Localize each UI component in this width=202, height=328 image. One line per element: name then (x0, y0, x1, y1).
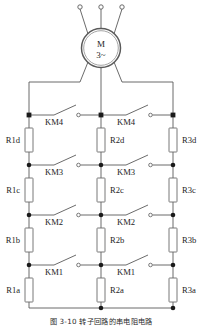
resistor-R1c-body (25, 178, 33, 202)
resistor-R1b-label: R1b (6, 235, 20, 245)
node-centre-km2 (99, 213, 104, 218)
km3-right-open-contact[interactable] (149, 163, 153, 167)
node-right-km1 (171, 263, 176, 268)
km2-left-blade[interactable] (54, 205, 76, 215)
km3-left-label: KM3 (45, 167, 63, 177)
resistor-R2c-label: R2c (110, 185, 124, 195)
resistor-R3b-label: R3b (182, 235, 196, 245)
resistor-R3c-body (169, 178, 177, 202)
rotor-output-leads (29, 62, 173, 115)
terminal-circle-w (120, 5, 124, 9)
resistor-R2d-label: R2d (110, 135, 125, 145)
resistor-R3c-label: R3c (182, 185, 196, 195)
rotor-resistance-schematic: M 3~ (0, 0, 202, 328)
km3-left-open-contact[interactable] (77, 163, 81, 167)
terminal-lead-u (80, 9, 88, 34)
node-right-km2 (171, 213, 176, 218)
node-left-km4 (27, 113, 32, 118)
km4-right-open-contact[interactable] (149, 113, 153, 117)
resistor-R2a-body (97, 278, 105, 302)
rotor-lead-left (29, 62, 88, 115)
km4-left-open-contact[interactable] (77, 113, 81, 117)
motor-phase-label: 3~ (96, 50, 106, 60)
km2-right-blade[interactable] (126, 205, 148, 215)
km3-right-label: KM3 (117, 167, 135, 177)
resistor-R1d-label: R1d (6, 135, 21, 145)
terminal-circle-u (78, 5, 82, 9)
resistor-R3a-label: R3a (182, 285, 196, 295)
resistor-R3d-label: R3d (182, 135, 197, 145)
node-centre-km4 (99, 113, 104, 118)
node-left-km3 (27, 163, 32, 168)
node-right-star (171, 306, 176, 311)
node-centre-km3 (99, 163, 104, 168)
motor-symbol-label: M (97, 39, 105, 49)
km2-right-label: KM2 (117, 217, 135, 227)
node-centre-km1 (99, 263, 104, 268)
node-left-km1 (27, 263, 32, 268)
node-left-km2 (27, 213, 32, 218)
terminal-circle-v (99, 5, 103, 9)
node-right-km3 (171, 163, 176, 168)
km2-left-open-contact[interactable] (77, 213, 81, 217)
km3-right-blade[interactable] (126, 155, 148, 165)
km1-left-label: KM1 (45, 267, 63, 277)
km1-left-blade[interactable] (54, 255, 76, 265)
km4-left-blade[interactable] (54, 105, 76, 115)
resistor-R2b-label: R2b (110, 235, 124, 245)
resistor-R2a-label: R2a (110, 285, 124, 295)
motor-terminal-dots (78, 5, 124, 9)
resistor-R1a-body (25, 278, 33, 302)
resistor-R1c-label: R1c (6, 185, 20, 195)
km2-left-label: KM2 (45, 217, 63, 227)
km2-right-open-contact[interactable] (149, 213, 153, 217)
node-centre-star (99, 306, 104, 311)
resistor-R2b-body (97, 228, 105, 252)
resistor-R1d-body (25, 128, 33, 152)
figure-canvas: M 3~ (0, 0, 202, 328)
resistor-R3d-body (169, 128, 177, 152)
km3-left-blade[interactable] (54, 155, 76, 165)
km4-right-blade[interactable] (126, 105, 148, 115)
km1-right-open-contact[interactable] (149, 263, 153, 267)
figure-caption: 图 3-10 转子回路的串电阻电路 (0, 316, 202, 327)
resistor-R2d-body (97, 128, 105, 152)
km1-right-blade[interactable] (126, 255, 148, 265)
resistor-R3a-body (169, 278, 177, 302)
km4-right-label: KM4 (117, 117, 136, 127)
km1-left-open-contact[interactable] (77, 263, 81, 267)
km1-right-label: KM1 (117, 267, 135, 277)
resistor-R3b-body (169, 228, 177, 252)
resistor-R1b-body (25, 228, 33, 252)
terminal-lead-w (114, 9, 122, 34)
km4-left-label: KM4 (45, 117, 64, 127)
resistor-R1a-label: R1a (6, 285, 20, 295)
resistor-R2c-body (97, 178, 105, 202)
node-right-km4 (171, 113, 176, 118)
